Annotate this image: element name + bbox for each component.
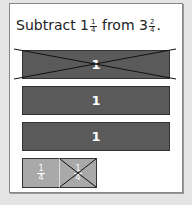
- title-suffix: .: [156, 17, 160, 33]
- cross-out-icon: [60, 159, 96, 187]
- fraction-denominator: 4: [37, 174, 44, 182]
- mixed-number-2-fraction: 24: [149, 19, 155, 34]
- whole-bar-3: 1: [22, 122, 170, 151]
- problem-title: Subtract 114 from 324.: [16, 17, 161, 34]
- whole-bar-2: 1: [22, 86, 170, 115]
- quarter-bar-1: 1 4: [22, 158, 60, 188]
- fraction-denominator: 4: [90, 27, 96, 34]
- whole-bar-label: 1: [91, 93, 100, 108]
- fraction-denominator: 4: [149, 27, 155, 34]
- mixed-number-2-whole: 3: [139, 17, 148, 33]
- cross-out-icon: [14, 49, 176, 79]
- title-prefix: Subtract: [16, 17, 80, 33]
- quarter-label: 1 4: [37, 165, 44, 182]
- mixed-number-1-whole: 1: [80, 17, 89, 33]
- whole-bar-label: 1: [91, 129, 100, 144]
- title-middle: from: [98, 17, 139, 33]
- mixed-number-1-fraction: 14: [90, 19, 96, 34]
